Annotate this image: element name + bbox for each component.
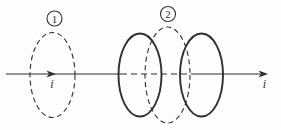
current-label-right: i — [263, 77, 266, 91]
coil-front-left-ellipse — [119, 34, 162, 117]
diagram-canvas: 1 2 i i — [0, 0, 281, 130]
loop2-badge-number: 2 — [165, 8, 171, 20]
loop1-badge-number: 1 — [52, 13, 58, 25]
coil-front-right-ellipse — [180, 34, 223, 117]
coupled-loops-figure: 1 2 i i — [0, 0, 281, 130]
current-label-left: i — [50, 77, 53, 91]
